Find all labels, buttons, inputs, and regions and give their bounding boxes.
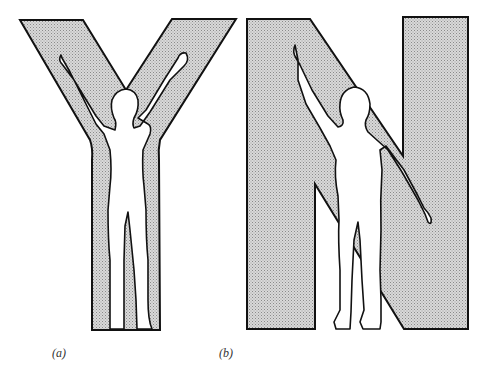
panel-b-letter-n	[247, 17, 468, 329]
panel-a-caption: (a)	[52, 346, 66, 361]
letter-pose-diagram	[0, 0, 486, 382]
panel-b-caption: (b)	[219, 346, 233, 361]
panel-a-letter-y	[20, 19, 236, 330]
